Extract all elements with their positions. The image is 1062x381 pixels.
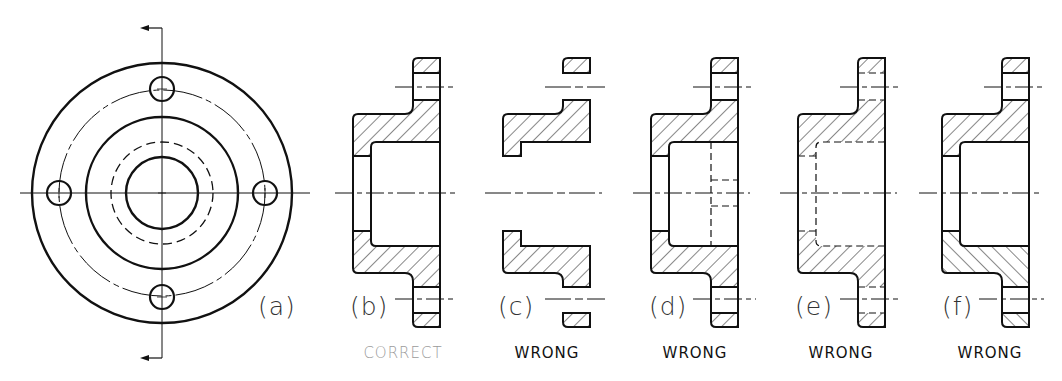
view-label-b: (b)	[350, 292, 388, 321]
view-label-a: (a)	[258, 292, 296, 321]
verdict-d: WRONG	[645, 344, 745, 362]
verdict-c: WRONG	[497, 344, 597, 362]
verdict-f: WRONG	[940, 344, 1040, 362]
view-label-d: (d)	[649, 292, 687, 321]
view-b-section	[335, 58, 458, 327]
view-e-section	[780, 58, 900, 327]
arrow-up-left-icon	[140, 25, 149, 31]
hidden-lines	[711, 142, 738, 246]
view-label-c: (c)	[498, 292, 534, 321]
arrow-down-left-icon	[140, 355, 149, 361]
drawing-canvas	[0, 0, 1062, 381]
verdict-e: WRONG	[791, 344, 891, 362]
view-c-section	[485, 58, 605, 327]
view-label-e: (e)	[795, 292, 833, 321]
view-label-f: (f)	[942, 292, 973, 321]
verdict-b: CORRECT	[353, 344, 453, 362]
view-f-section	[919, 58, 1044, 327]
view-d-section	[633, 58, 756, 327]
